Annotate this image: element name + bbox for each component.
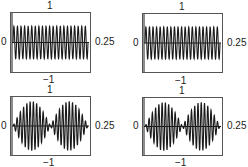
x-min-label: 0 — [1, 121, 7, 131]
x-min-label: 0 — [133, 121, 139, 131]
x-min-label: 0 — [133, 38, 139, 48]
x-max-label: 0.25 — [227, 38, 246, 48]
y-max-label: 1 — [47, 1, 53, 11]
x-max-label: 0.25 — [95, 121, 114, 131]
plot-top-right: 1 −1 0 0.25 — [142, 13, 223, 73]
plot-bottom-right: 1 −1 0 0.25 — [142, 97, 223, 156]
x-max-label: 0.25 — [227, 121, 246, 131]
y-max-label: 1 — [179, 86, 185, 96]
x-max-label: 0.25 — [95, 37, 114, 47]
y-max-label: 1 — [47, 85, 53, 95]
plot-top-left: 1 −1 0 0.25 — [10, 12, 91, 73]
plot-area — [142, 97, 223, 156]
plot-area — [10, 12, 91, 73]
x-min-label: 0 — [1, 37, 7, 47]
plot-bottom-left: 1 −1 0 0.25 — [10, 96, 91, 156]
y-min-label: −1 — [43, 158, 54, 167]
y-min-label: −1 — [175, 158, 186, 167]
plot-area — [142, 13, 223, 73]
plot-area — [10, 96, 91, 156]
y-max-label: 1 — [179, 2, 185, 12]
